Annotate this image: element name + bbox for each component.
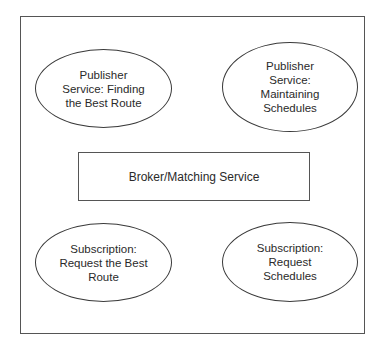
subscription-request-best-route-node: Subscription: Request the Best Route	[35, 223, 172, 302]
node-label: Publisher Service: Maintaining Schedules	[261, 59, 320, 115]
broker-label: Broker/Matching Service	[129, 170, 260, 184]
node-label: Subscription: Request the Best Route	[59, 242, 147, 284]
publisher-finding-best-route-node: Publisher Service: Finding the Best Rout…	[35, 49, 172, 128]
broker-matching-service-box: Broker/Matching Service	[78, 152, 310, 201]
publisher-maintaining-schedules-node: Publisher Service: Maintaining Schedules	[222, 42, 358, 132]
node-label: Publisher Service: Finding the Best Rout…	[62, 68, 144, 110]
node-label: Subscription: Request Schedules	[257, 241, 323, 283]
subscription-request-schedules-node: Subscription: Request Schedules	[222, 222, 358, 302]
